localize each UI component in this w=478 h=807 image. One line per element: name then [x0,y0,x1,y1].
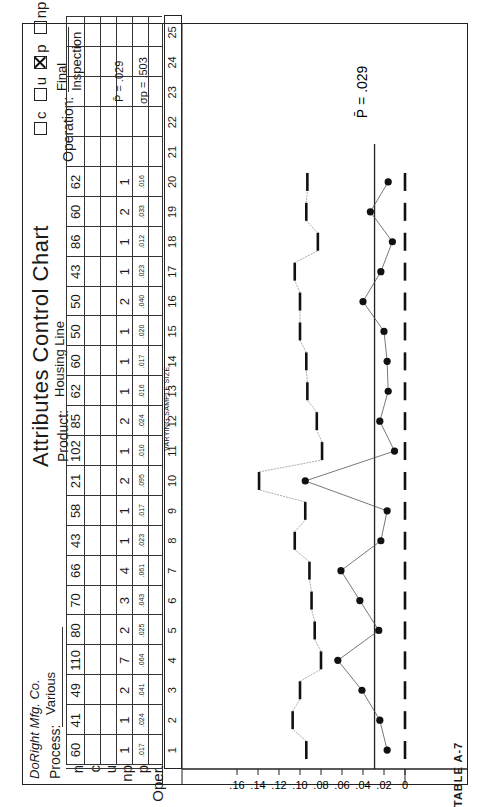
p-data-point [384,507,391,514]
ucl-connector [309,580,311,592]
p-data-point [358,687,365,694]
ucl-connector [295,520,306,532]
p-data-point [385,388,392,395]
ucl-connector [306,221,318,233]
ucl-connector [293,729,307,741]
y-tick-label: .16 [229,779,244,791]
ucl-connector [306,370,307,382]
p-data-point [367,208,374,215]
y-tick-label: .06 [334,779,349,791]
ucl-connector [300,669,321,681]
y-tick-label: .04 [355,779,370,791]
control-chart-page: DoRight Mfg. Co. Attributes Control Char… [0,0,478,807]
ucl-connector [295,550,310,562]
center-line-annotation: P̄ = .029 [354,65,370,118]
y-tick-label: .08 [313,779,328,791]
p-data-point [356,597,363,604]
ucl-connector [300,340,306,352]
y-tick-label: 0 [402,779,408,791]
p-data-point [334,657,341,664]
ucl-connector [307,400,316,412]
p-data-point [389,238,396,245]
y-tick-label: .10 [292,779,307,791]
ucl-connector [295,281,300,293]
p-data-point [377,268,384,275]
ucl-connector [259,460,322,472]
p-data-point [384,358,391,365]
p-data-point [380,328,387,335]
p-data-point [384,746,391,753]
p-data-point [377,537,384,544]
p-data-point [375,627,382,634]
ucl-connector [312,610,315,622]
ucl-connector [317,430,322,442]
y-tick-label: .14 [250,779,265,791]
p-data-point [376,418,383,425]
ucl-connector [306,191,307,203]
p-data-point [302,477,309,484]
p-data-point [385,178,392,185]
p-data-point [376,717,383,724]
ucl-connector [259,490,305,502]
p-chart-plot: 0.02.04.06.08.10.12.14.16P̄ = .029 [0,0,478,807]
ucl-connector [293,699,300,711]
p-data-point [359,298,366,305]
y-tick-label: .12 [271,779,286,791]
p-data-point [391,447,398,454]
p-data-point [337,567,344,574]
p-series-line [305,182,394,750]
y-tick-label: .02 [376,779,391,791]
ucl-connector [295,251,318,263]
ucl-connector [315,639,321,651]
table-caption: TABLE A-7 [452,742,464,807]
